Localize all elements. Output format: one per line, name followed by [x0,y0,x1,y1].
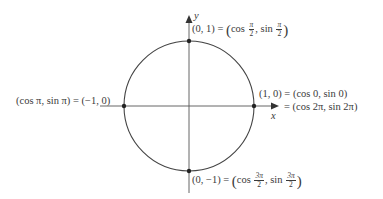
top-eq: = [217,23,223,34]
point-right [252,104,256,108]
x-axis-label: x [271,110,276,121]
point-top [187,39,191,43]
point-bottom [187,169,191,173]
y-axis-label: y [194,10,199,21]
top-sin-fraction: π2 [276,21,282,38]
bottom-sin: sin [270,174,282,185]
bottom-sin-fraction: 3π2 [286,172,296,189]
label-bottom-point: (0, −1) = (cos 3π2, sin 3π2) [192,172,302,189]
bottom-cos-fraction: 3π2 [254,172,264,189]
point-left [122,104,126,108]
label-top-point: (0, 1) = (cos π2, sin π2) [192,21,288,38]
label-right-line2: = (cos 2π, sin 2π) [284,101,357,113]
top-coords: (0, 1) [192,23,215,34]
top-sin: sin [261,23,273,34]
label-left-point: (cos π, sin π) = (−1, 0) [16,95,110,107]
label-right-line1: (1, 0) = (cos 0, sin 0) [259,88,347,100]
top-cos: cos [231,23,245,34]
top-cos-fraction: π2 [249,21,255,38]
bottom-coords: (0, −1) [192,174,221,185]
bottom-eq: = [223,174,229,185]
x-axis-arrow-icon [271,103,279,110]
bottom-cos: cos [237,174,251,185]
